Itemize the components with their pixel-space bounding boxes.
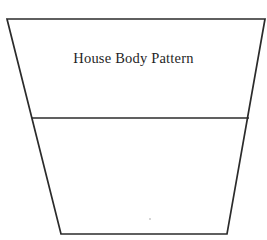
pattern-label: House Body Pattern [0, 51, 267, 67]
house-body-pattern-drawing [0, 0, 267, 240]
pattern-page: House Body Pattern [0, 0, 267, 240]
scan-speck [149, 218, 151, 220]
